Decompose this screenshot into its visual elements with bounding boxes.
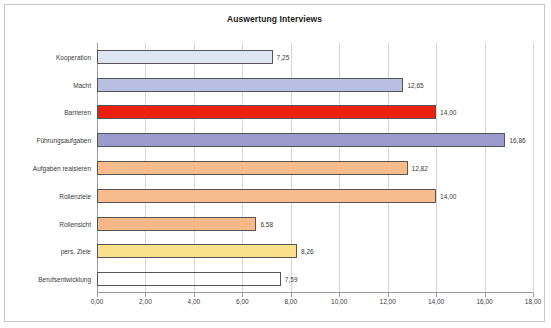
category-label: Rollenziele	[59, 192, 91, 199]
bar[interactable]	[97, 133, 505, 147]
bar-value-label: 12,65	[407, 81, 423, 88]
category-label: Macht	[73, 81, 91, 88]
bar-value-label: 7,59	[285, 276, 298, 283]
bar-row[interactable]: Macht12,65	[97, 78, 533, 92]
category-label: Führungsaufgaben	[36, 137, 91, 144]
bar-row[interactable]: Kooperation7,25	[97, 50, 533, 64]
x-tick-label: 8,00	[284, 298, 297, 305]
x-tick-label: 10,00	[331, 298, 347, 305]
chart-frame: Auswertung Interviews 0,002,004,006,008,…	[4, 4, 545, 322]
x-tick-label: 6,00	[236, 298, 249, 305]
bar-value-label: 6,58	[260, 220, 273, 227]
bar[interactable]	[97, 105, 436, 119]
bar-value-label: 14,00	[440, 192, 456, 199]
category-label: Barrieren	[64, 109, 91, 116]
bar-value-label: 16,86	[509, 137, 525, 144]
bar-row[interactable]: Führungsaufgaben16,86	[97, 133, 533, 147]
chart-title: Auswertung Interviews	[5, 14, 544, 24]
x-tick-label: 2,00	[139, 298, 152, 305]
x-tick-mark	[388, 293, 389, 297]
bar-row[interactable]: Berufsentwicklung7,59	[97, 272, 533, 286]
x-tick-mark	[485, 293, 486, 297]
x-tick-mark	[145, 293, 146, 297]
bar[interactable]	[97, 189, 436, 203]
bar-value-label: 7,25	[277, 53, 290, 60]
bar-row[interactable]: Rollenziele14,00	[97, 189, 533, 203]
bar-value-label: 14,00	[440, 109, 456, 116]
category-label: Aufgaben realsieren	[33, 165, 91, 172]
gridline	[533, 43, 534, 293]
bar-row[interactable]: pers. Ziele8,26	[97, 244, 533, 258]
x-tick-label: 16,00	[476, 298, 492, 305]
x-tick-label: 18,00	[525, 298, 541, 305]
x-tick-label: 12,00	[380, 298, 396, 305]
category-label: Kooperation	[56, 53, 91, 60]
plot-area: 0,002,004,006,008,0010,0012,0014,0016,00…	[97, 43, 533, 293]
bar[interactable]	[97, 50, 273, 64]
bar-value-label: 8,26	[301, 248, 314, 255]
x-tick-mark	[242, 293, 243, 297]
bar[interactable]	[97, 244, 297, 258]
x-tick-mark	[533, 293, 534, 297]
bar-row[interactable]: Rollensicht6,58	[97, 217, 533, 231]
x-tick-label: 4,00	[188, 298, 201, 305]
x-tick-mark	[291, 293, 292, 297]
x-tick-mark	[97, 293, 98, 297]
bar-row[interactable]: Aufgaben realsieren12,82	[97, 161, 533, 175]
bar-row[interactable]: Barrieren14,00	[97, 105, 533, 119]
bar[interactable]	[97, 217, 256, 231]
x-tick-mark	[194, 293, 195, 297]
category-label: Berufsentwicklung	[38, 276, 91, 283]
bar[interactable]	[97, 78, 403, 92]
x-tick-mark	[339, 293, 340, 297]
bar[interactable]	[97, 161, 408, 175]
x-tick-label: 14,00	[428, 298, 444, 305]
bar-value-label: 12,82	[412, 165, 428, 172]
bar[interactable]	[97, 272, 281, 286]
x-tick-label: 0,00	[91, 298, 104, 305]
category-label: Rollensicht	[59, 220, 91, 227]
category-label: pers. Ziele	[61, 248, 91, 255]
x-axis-line	[97, 292, 533, 293]
x-tick-mark	[436, 293, 437, 297]
